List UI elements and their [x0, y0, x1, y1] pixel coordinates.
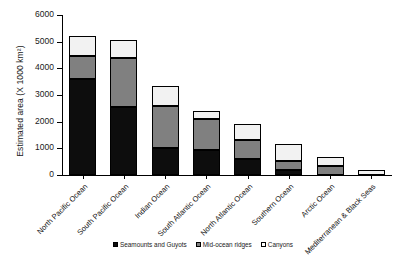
x-axis-tick-mark	[124, 175, 125, 179]
bar-segment[interactable]	[110, 40, 137, 57]
y-axis-line	[62, 15, 63, 175]
y-axis-tick-mark	[57, 122, 62, 123]
y-axis-tick-mark	[57, 42, 62, 43]
bar-4[interactable]	[234, 124, 261, 175]
legend-item-label: Canyons	[268, 241, 293, 248]
y-axis-tick-mark	[57, 68, 62, 69]
x-axis-tick-mark	[83, 175, 84, 179]
bar-segment[interactable]	[152, 86, 179, 106]
bar-segment[interactable]	[69, 56, 96, 79]
black-square-swatch	[113, 242, 118, 247]
bar-segment[interactable]	[234, 124, 261, 140]
y-axis-tick-label: 0	[14, 169, 54, 179]
legend-item[interactable]: Canyons	[261, 241, 293, 248]
y-axis-tick-label: 6000	[14, 9, 54, 19]
bar-3[interactable]	[193, 111, 220, 175]
bar-segment[interactable]	[317, 166, 344, 175]
stacked-bar-chart-figure: Estimated area (X 1000 km²) 010002000300…	[0, 0, 406, 271]
y-axis-tick-label: 4000	[14, 62, 54, 72]
white-square-swatch	[261, 242, 266, 247]
bar-segment[interactable]	[193, 111, 220, 119]
bar-segment[interactable]	[69, 79, 96, 175]
x-axis-tick-mark	[165, 175, 166, 179]
y-axis-tick-mark	[57, 175, 62, 176]
x-axis-tick-mark	[248, 175, 249, 179]
bar-segment[interactable]	[358, 170, 385, 175]
y-axis-tick-label: 5000	[14, 36, 54, 46]
bar-segment[interactable]	[110, 107, 137, 175]
y-axis-tick-mark	[57, 15, 62, 16]
y-axis-tick-label: 3000	[14, 89, 54, 99]
gray-square-swatch	[196, 242, 201, 247]
bar-2[interactable]	[152, 86, 179, 175]
bar-6[interactable]	[317, 157, 344, 175]
x-axis-tick-mark	[289, 175, 290, 179]
bar-segment[interactable]	[275, 161, 302, 170]
bar-7[interactable]	[358, 170, 385, 175]
x-axis-tick-mark	[206, 175, 207, 179]
y-axis-tick-label: 2000	[14, 116, 54, 126]
y-axis-tick-mark	[57, 95, 62, 96]
bar-segment[interactable]	[193, 119, 220, 150]
bar-segment[interactable]	[152, 148, 179, 175]
bar-segment[interactable]	[69, 36, 96, 57]
y-axis-tick-mark	[57, 148, 62, 149]
legend-item-label: Seamounts and Guyots	[120, 241, 187, 248]
plot-area: 0100020003000400050006000	[62, 15, 392, 175]
x-axis-tick-mark	[371, 175, 372, 179]
bar-1[interactable]	[110, 40, 137, 175]
bar-5[interactable]	[275, 144, 302, 175]
bar-segment[interactable]	[275, 170, 302, 175]
bar-segment[interactable]	[152, 106, 179, 149]
bar-segment[interactable]	[234, 140, 261, 159]
legend-item[interactable]: Mid-ocean ridges	[196, 241, 252, 248]
x-axis-category-label: North Pacific Ocean	[0, 182, 89, 271]
bar-segment[interactable]	[193, 150, 220, 175]
y-axis-tick-label: 1000	[14, 142, 54, 152]
legend-item[interactable]: Seamounts and Guyots	[113, 241, 187, 248]
bar-segment[interactable]	[275, 144, 302, 161]
x-axis-line	[62, 175, 392, 176]
bar-segment[interactable]	[234, 159, 261, 175]
bar-segment[interactable]	[317, 157, 344, 166]
chart-legend: Seamounts and GuyotsMid-ocean ridgesCany…	[0, 241, 406, 248]
figure-caption	[0, 262, 406, 271]
bar-segment[interactable]	[110, 58, 137, 107]
x-axis-tick-mark	[330, 175, 331, 179]
bar-0[interactable]	[69, 36, 96, 175]
legend-item-label: Mid-ocean ridges	[203, 241, 252, 248]
